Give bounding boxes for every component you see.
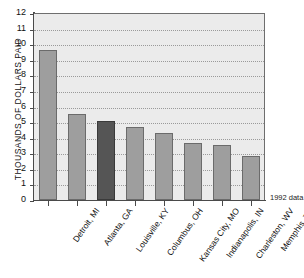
gridline (34, 45, 264, 46)
bar (155, 133, 173, 200)
gridline (34, 92, 264, 93)
gridline (34, 30, 264, 31)
x-tick-label: Atlanta, GA (102, 206, 135, 247)
y-tick-mark (30, 185, 34, 186)
y-tick-label: 3 (0, 147, 26, 157)
x-tick-label: Detroit, MI (71, 206, 102, 244)
y-tick-label: 11 (0, 23, 26, 33)
y-tick-label: 7 (0, 85, 26, 95)
y-tick-label: 1 (0, 178, 26, 188)
y-tick-label: 0 (0, 194, 26, 204)
y-tick-label: 8 (0, 69, 26, 79)
gridline (34, 76, 264, 77)
y-tick-label: 5 (0, 116, 26, 126)
y-tick-label: 2 (0, 163, 26, 173)
source-annotation: 1992 data (270, 193, 303, 202)
bar (39, 50, 57, 200)
y-tick-label: 12 (0, 7, 26, 17)
y-tick-mark (30, 201, 34, 202)
bar (184, 143, 202, 200)
y-tick-label: 10 (0, 38, 26, 48)
bar (126, 127, 144, 200)
y-tick-label: 9 (0, 54, 26, 64)
bar (68, 114, 86, 200)
y-tick-label: 4 (0, 132, 26, 142)
bar-chart: THOUSANDS OF DOLLARS PAID 12111098765432… (0, 0, 304, 278)
x-axis-tick-labels: Detroit, MIAtlanta, GALouisville, KYColu… (34, 204, 265, 274)
y-tick-mark (30, 14, 34, 15)
plot-area (34, 13, 265, 200)
y-tick-mark (30, 76, 34, 77)
y-tick-mark (30, 123, 34, 124)
bar (242, 156, 260, 200)
y-tick-mark (30, 139, 34, 140)
gridline (34, 61, 264, 62)
x-tick-label: Louisville, KY (134, 206, 171, 254)
bar (97, 121, 115, 200)
y-tick-mark (30, 61, 34, 62)
y-tick-mark (30, 92, 34, 93)
y-tick-mark (30, 108, 34, 109)
y-tick-mark (30, 154, 34, 155)
bar (213, 145, 231, 200)
x-tick-label: Columbus, OH (165, 206, 205, 257)
y-tick-mark (30, 170, 34, 171)
y-tick-mark (30, 45, 34, 46)
gridline (34, 108, 264, 109)
y-tick-mark (30, 30, 34, 31)
y-tick-label: 6 (0, 101, 26, 111)
